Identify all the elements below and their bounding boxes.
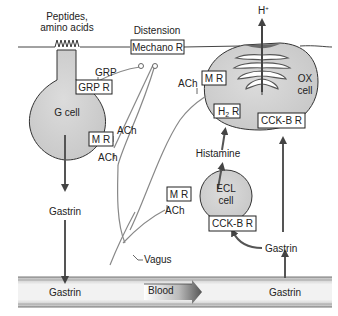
- g-cell-muscarinic-receptor-box: M R: [89, 132, 113, 146]
- gastrin-to-ecl-arrow: [233, 232, 262, 248]
- nerve-ending-icon: [153, 64, 158, 69]
- h2-receptor-box: H2 R: [214, 104, 240, 118]
- h2r-tail: R: [229, 106, 239, 117]
- peptides-label: Peptides,: [46, 11, 88, 22]
- grp-label: GRP: [95, 67, 117, 78]
- gastrin-ecl-label: Gastrin: [265, 243, 297, 254]
- gastrin-mid-label: Gastrin: [49, 206, 81, 217]
- ecl-cckb-receptor-box: CCK-B R: [209, 216, 256, 231]
- ox-cckb-receptor-box: CCK-B R: [258, 113, 305, 128]
- amino-acids-label: amino acids: [40, 22, 93, 33]
- ach-g-cell-label: ACh: [117, 125, 136, 136]
- vagus-nerve: [110, 65, 206, 265]
- microvilli-icon: [55, 40, 79, 47]
- gastric-acid-secretion-diagram: Mechano R GRP R M R M R H2 R CCK-B R M R…: [0, 0, 338, 316]
- h-plus-superscript: +: [265, 5, 269, 11]
- ox-cckb-label: CCK-B R: [261, 115, 302, 126]
- gastrin-blood-left-label: Gastrin: [49, 287, 81, 298]
- g-cell-label: G cell: [54, 107, 80, 118]
- ecl-cell-label-line1: ECL: [216, 183, 236, 194]
- ecl-muscarinic-receptor-box: M R: [167, 187, 191, 201]
- vagus-label: Vagus: [144, 254, 172, 265]
- blood-label: Blood: [148, 285, 174, 296]
- mechano-receptor-label: Mechano R: [132, 42, 183, 53]
- distension-label: Distension: [134, 25, 181, 36]
- ach-ox-label: ACh: [178, 78, 197, 89]
- ach-ecl-label: ACh: [165, 205, 184, 216]
- ox-mr-label: M R: [205, 73, 223, 84]
- h2r-label: H: [218, 106, 225, 117]
- ox-cell-label-line1: OX: [298, 73, 313, 84]
- ecl-cckb-label: CCK-B R: [212, 218, 253, 229]
- h-plus-label: H+: [258, 5, 269, 16]
- grp-receptor-label: GRP R: [78, 82, 110, 93]
- mechano-receptor-box: Mechano R: [131, 40, 184, 54]
- gastrin-blood-right-label: Gastrin: [269, 287, 301, 298]
- grp-receptor-box: GRP R: [76, 80, 112, 94]
- ecl-cell-label-line2: cell: [218, 195, 233, 206]
- ox-muscarinic-receptor-box: M R: [202, 71, 226, 85]
- svg-text:H2 R: H2 R: [218, 106, 239, 118]
- g-cell-mr-label: M R: [92, 134, 110, 145]
- ecl-mr-label: M R: [170, 189, 188, 200]
- ox-cell-label-line2: cell: [297, 85, 312, 96]
- nerve-ending-icon: [139, 64, 144, 69]
- histamine-label: Histamine: [196, 148, 241, 159]
- h-plus-text: H: [258, 5, 265, 16]
- ach-lower-label: ACh: [98, 152, 117, 163]
